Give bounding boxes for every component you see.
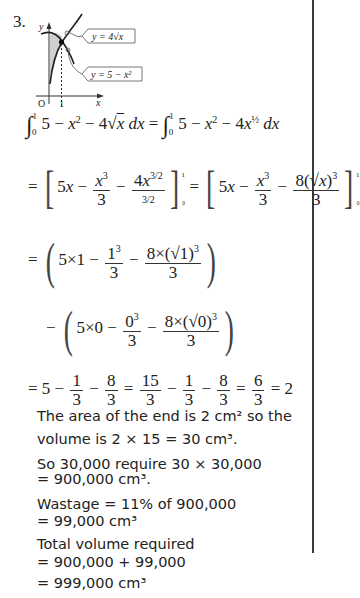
question-number: 3. xyxy=(13,12,26,32)
text-line-1: The area of the end is 2 cm² so the xyxy=(37,408,292,424)
curve2-label: y = 5 − x² xyxy=(90,69,132,80)
simplification-line: = 5 − 13 − 83 = 153 − 13 − 83 = 63 = 2 xyxy=(28,372,293,409)
y-axis-label: y xyxy=(38,21,44,32)
text-line-3: So 30,000 require 30 × 30,000 xyxy=(37,456,262,472)
integral-line: ∫105 − x2 − 4√x dx = ∫105 − x2 − 4x½ dx xyxy=(26,112,279,139)
area-diagram: y = 4√x y = 5 − x² y x O 1 xyxy=(30,8,145,108)
text-line-4: = 900,000 cm³. xyxy=(37,471,151,487)
text-line-7: Total volume required xyxy=(37,536,195,552)
antiderivative-line: = [5x − x33 − 4x3/23/2]¹₀ = [5x − x33 − … xyxy=(28,164,360,212)
text-line-9: = 999,000 cm³ xyxy=(37,575,146,591)
text-line-5: Wastage = 11% of 900,000 xyxy=(37,496,236,512)
text-line-8: = 900,000 + 99,000 xyxy=(37,554,186,570)
upper-limit-line: = (5×1 − 133 − 8×(√1)33) xyxy=(28,236,220,286)
x-axis-label: x xyxy=(95,97,101,108)
x-tick-label: 1 xyxy=(59,98,64,108)
origin-label: O xyxy=(38,98,45,108)
curve1-label: y = 4√x xyxy=(91,31,124,42)
text-line-6: = 99,000 cm³ xyxy=(37,513,137,529)
lower-limit-line: − (5×0 − 033 − 8×(√0)33) xyxy=(46,304,238,354)
page-divider-line xyxy=(312,0,314,553)
text-line-2: volume is 2 × 15 = 30 cm³. xyxy=(37,431,238,447)
